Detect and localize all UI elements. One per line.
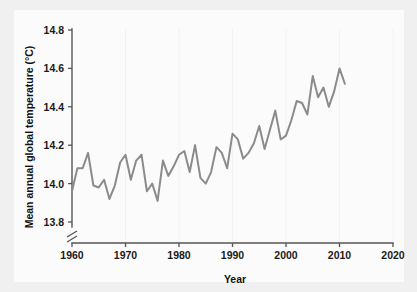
y-axis-title: Mean annual global temperature (°C) <box>23 46 35 229</box>
y-tick-label: 14.2 <box>44 139 65 151</box>
temperature-series-line <box>72 68 345 200</box>
x-tick-label: 2010 <box>328 249 352 261</box>
axis-ticks <box>68 30 393 247</box>
x-tick-label: 2000 <box>274 249 298 261</box>
y-tick-label: 14.6 <box>44 62 65 74</box>
y-tick-label: 14.4 <box>44 101 65 113</box>
x-tick-label: 2020 <box>381 249 405 261</box>
x-tick-labels: 1960197019801990200020102020 <box>60 249 405 261</box>
y-tick-label: 13.8 <box>44 216 65 228</box>
y-tick-label: 14.0 <box>44 178 65 190</box>
x-tick-label: 1990 <box>221 249 245 261</box>
chart-figure: 13.814.014.214.414.614.8 196019701980199… <box>0 0 417 292</box>
x-tick-label: 1980 <box>167 249 191 261</box>
y-tick-label: 14.8 <box>44 24 65 36</box>
x-tick-label: 1970 <box>114 249 138 261</box>
x-tick-label: 1960 <box>60 249 84 261</box>
x-axis-title: Year <box>224 273 246 285</box>
line-chart: 13.814.014.214.414.614.8 196019701980199… <box>0 0 417 292</box>
gridlines <box>126 29 394 242</box>
y-axis-break-icon <box>67 231 77 242</box>
y-tick-labels: 13.814.014.214.414.614.8 <box>44 24 65 228</box>
